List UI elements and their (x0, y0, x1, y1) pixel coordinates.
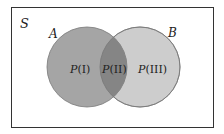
set-b-label: B (167, 26, 177, 40)
region-2-label: P(II) (101, 63, 127, 76)
universe-label: S (20, 16, 29, 31)
region-1-label: P(I) (69, 63, 90, 76)
set-a-label: A (48, 27, 58, 41)
venn-diagram: S A B P(I) P(II) P(III) (0, 0, 224, 134)
region-3-label: P(III) (137, 63, 167, 76)
